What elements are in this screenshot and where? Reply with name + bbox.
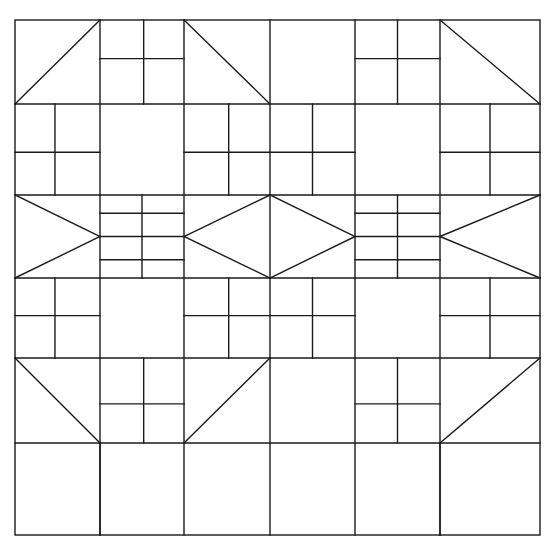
canvas-background (0, 0, 547, 546)
quilt-diagram (0, 0, 547, 546)
quilt-canvas (0, 0, 547, 546)
